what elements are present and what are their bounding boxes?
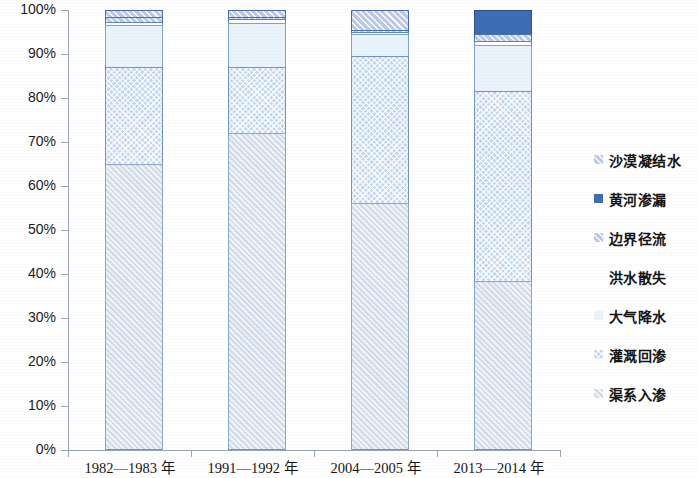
legend-swatch-icon bbox=[594, 272, 603, 281]
legend-item-dqjs[interactable]: 大气降水 bbox=[594, 296, 698, 335]
legend-item-ggh[interactable]: 灌溉回渗 bbox=[594, 335, 698, 374]
legend-swatch-icon bbox=[594, 311, 603, 320]
legend-label: 洪水散失 bbox=[609, 267, 667, 287]
y-axis-tick-label: 50% bbox=[0, 221, 56, 237]
chart-legend: 沙漠凝结水黄河渗漏边界径流洪水散失大气降水灌溉回渗渠系入渗 bbox=[594, 140, 698, 413]
bar-segment-bjjl[interactable] bbox=[474, 34, 532, 41]
x-axis-label: 1991—1992 年 bbox=[191, 456, 314, 477]
y-axis-tick-label: 80% bbox=[0, 89, 56, 105]
legend-item-qxrs[interactable]: 渠系入渗 bbox=[594, 374, 698, 413]
bar-segment-smnj[interactable] bbox=[105, 10, 163, 17]
legend-swatch-icon bbox=[594, 350, 603, 359]
stacked-bar[interactable] bbox=[105, 10, 163, 450]
legend-label: 沙漠凝结水 bbox=[609, 150, 681, 170]
bar-segment-qxrs[interactable] bbox=[228, 133, 286, 450]
y-axis-tick-label: 100% bbox=[0, 1, 56, 17]
legend-swatch-icon bbox=[594, 389, 603, 398]
stacked-bar[interactable] bbox=[351, 10, 409, 450]
bar-segment-ggh[interactable] bbox=[351, 56, 409, 203]
y-axis-tick-label: 60% bbox=[0, 177, 56, 193]
x-axis-tick bbox=[560, 450, 561, 457]
bar-segment-dqjs[interactable] bbox=[105, 25, 163, 67]
legend-item-smnj[interactable]: 沙漠凝结水 bbox=[594, 140, 698, 179]
bar-segment-qxrs[interactable] bbox=[474, 281, 532, 450]
legend-swatch-icon bbox=[594, 155, 603, 164]
legend-label: 灌溉回渗 bbox=[609, 345, 667, 365]
bar-segment-ggh[interactable] bbox=[228, 67, 286, 133]
legend-item-hhsl[interactable]: 黄河渗漏 bbox=[594, 179, 698, 218]
bar-segment-smnj[interactable] bbox=[351, 10, 409, 30]
bar-segment-dqjs[interactable] bbox=[228, 23, 286, 67]
legend-item-bjjl[interactable]: 边界径流 bbox=[594, 218, 698, 257]
y-axis-tick-label: 90% bbox=[0, 45, 56, 61]
legend-label: 黄河渗漏 bbox=[609, 189, 667, 209]
legend-swatch-icon bbox=[594, 233, 603, 242]
bar-segment-dqjs[interactable] bbox=[351, 34, 409, 56]
y-axis-tick-label: 30% bbox=[0, 309, 56, 325]
bar-segment-smnj[interactable] bbox=[228, 10, 286, 17]
y-axis-tick-label: 20% bbox=[0, 353, 56, 369]
bar-segment-qxrs[interactable] bbox=[351, 203, 409, 450]
bar-segment-ggh[interactable] bbox=[474, 91, 532, 280]
legend-item-hsss[interactable]: 洪水散失 bbox=[594, 257, 698, 296]
y-axis-tick-label: 40% bbox=[0, 265, 56, 281]
bar-segment-dqjs[interactable] bbox=[474, 45, 532, 91]
legend-swatch-icon bbox=[594, 194, 603, 203]
bar-segment-ggh[interactable] bbox=[105, 67, 163, 164]
y-axis-tick-label: 10% bbox=[0, 397, 56, 413]
legend-label: 大气降水 bbox=[609, 306, 667, 326]
chart-container: 0%10%20%30%40%50%60%70%80%90%100% 1982—1… bbox=[0, 0, 698, 478]
x-axis-label: 2013—2014 年 bbox=[437, 456, 560, 477]
y-axis-tick-label: 0% bbox=[0, 441, 56, 457]
legend-label: 渠系入渗 bbox=[609, 384, 667, 404]
x-axis-label: 2004—2005 年 bbox=[314, 456, 437, 477]
stacked-bar[interactable] bbox=[474, 10, 532, 450]
x-axis-label: 1982—1983 年 bbox=[68, 456, 191, 477]
y-axis-tick-label: 70% bbox=[0, 133, 56, 149]
bar-segment-qxrs[interactable] bbox=[105, 164, 163, 450]
plot-area bbox=[68, 10, 560, 450]
legend-label: 边界径流 bbox=[609, 228, 667, 248]
bar-segment-hhsl[interactable] bbox=[474, 10, 532, 34]
stacked-bar[interactable] bbox=[228, 10, 286, 450]
